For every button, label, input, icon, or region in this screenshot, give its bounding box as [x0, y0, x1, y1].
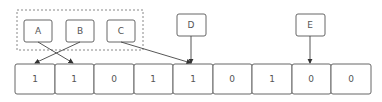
pointer-box-a: A — [24, 20, 52, 42]
svg-text:C: C — [118, 26, 124, 36]
cell-0: 1 — [32, 74, 38, 84]
cell-4: 1 — [190, 74, 196, 84]
cell-3: 1 — [150, 74, 156, 84]
pointer-box-c: C — [107, 20, 135, 42]
pointer-box-e: E — [296, 14, 325, 36]
bit-array-diagram: A B C D E 1 1 0 1 1 0 1 0 0 — [0, 0, 382, 102]
cell-7: 0 — [308, 74, 314, 84]
svg-text:D: D — [188, 20, 195, 30]
cell-8: 0 — [348, 74, 354, 84]
svg-text:A: A — [35, 26, 42, 36]
arrow-a — [38, 42, 73, 63]
arrow-b — [35, 42, 80, 63]
pointer-box-b: B — [66, 20, 94, 42]
svg-text:E: E — [307, 20, 313, 30]
cell-2: 0 — [111, 74, 117, 84]
pointer-box-d: D — [177, 14, 206, 36]
cell-6: 1 — [269, 74, 275, 84]
bit-cells: 1 1 0 1 1 0 1 0 0 — [15, 64, 371, 94]
svg-text:B: B — [77, 26, 83, 36]
arrow-c — [121, 42, 191, 63]
cell-5: 0 — [229, 74, 235, 84]
cell-1: 1 — [71, 74, 77, 84]
